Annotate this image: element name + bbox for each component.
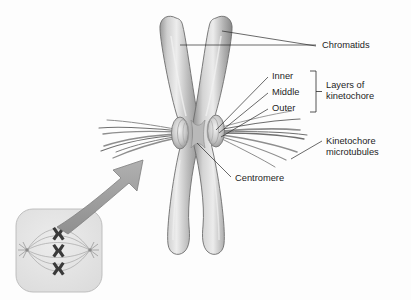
microtubules-right [222, 111, 307, 167]
layers-bracket [310, 71, 322, 112]
inset-cell-metaphase [16, 209, 102, 292]
chromosome-kinetochore-figure: Chromatids Inner Middle Outer Layers of … [0, 0, 411, 300]
label-kinetochore-microtubules-line1: Kinetochore [326, 136, 376, 146]
label-layers-of-kinetochore-line2: kinetochore [326, 91, 374, 101]
microtubules-left [99, 120, 181, 158]
label-middle: Middle [272, 87, 299, 97]
label-layers-of-kinetochore-line1: Layers of [326, 80, 365, 90]
label-inner: Inner [272, 71, 293, 81]
illustration-canvas: Chromatids Inner Middle Outer Layers of … [0, 0, 411, 300]
label-centromere: Centromere [235, 173, 284, 183]
label-chromatids: Chromatids [322, 40, 370, 50]
label-outer: Outer [272, 103, 295, 113]
label-kinetochore-microtubules-line2: microtubules [326, 147, 379, 157]
kinetochore-left [172, 117, 190, 149]
